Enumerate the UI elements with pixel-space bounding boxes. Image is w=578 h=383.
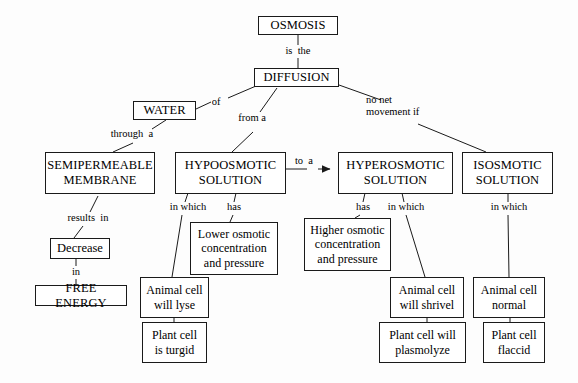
link-label-in-which-hyper: in which (381, 201, 431, 213)
node-water[interactable]: WATER (133, 101, 196, 120)
node-higher-osmotic[interactable]: Higher osmotic concentration and pressur… (304, 218, 391, 271)
edge-througha-semiperm (113, 143, 133, 152)
node-hyperosmotic-solution[interactable]: HYPEROSMOTIC SOLUTION (338, 152, 453, 194)
node-lower-osmotic[interactable]: Lower osmotic concentration and pressure (190, 222, 278, 275)
edge-inwhichr-animalshrivel (406, 215, 425, 277)
node-plant-cell-plasmolyze[interactable]: Plant cell will plasmolyze (379, 322, 466, 363)
edge-diffusion-froma (260, 88, 277, 112)
link-label-in-which-hypo: in which (163, 201, 213, 213)
edge-nonet-isosmotic (418, 124, 486, 152)
node-free-energy[interactable]: FREE ENERGY (35, 285, 127, 306)
node-osmosis[interactable]: OSMOSIS (258, 16, 338, 35)
node-diffusion[interactable]: DIFFUSION (254, 68, 339, 87)
link-label-through-a: through a (96, 128, 168, 140)
edge-inwhich-animalnormal (508, 215, 509, 277)
edge-semiperm-resultsin (90, 196, 98, 212)
node-plant-cell-flaccid[interactable]: Plant cell flaccid (483, 322, 545, 363)
link-label-from-a: from a (226, 112, 278, 124)
link-label-has-hyper: has (350, 201, 376, 213)
link-label-has-hypo: has (221, 201, 247, 213)
edge-inwhich-animallyse (172, 215, 182, 277)
node-plant-cell-turgid[interactable]: Plant cell is turgid (142, 322, 207, 363)
link-label-to-a: to a (290, 155, 318, 167)
link-label-is-the: is the (274, 45, 322, 57)
node-animal-cell-shrivel[interactable]: Animal cell will shrivel (390, 277, 464, 318)
link-label-in-which-iso: in which (484, 201, 534, 213)
edge-diffusion-of (228, 86, 256, 98)
node-animal-cell-normal[interactable]: Animal cell normal (473, 277, 545, 318)
link-label-of: of (207, 96, 225, 108)
link-label-results-in: results in (55, 212, 121, 224)
node-isosmotic-solution[interactable]: ISOSMOTIC SOLUTION (462, 152, 553, 194)
node-decrease[interactable]: Decrease (50, 238, 110, 259)
node-hypoosmotic-solution[interactable]: HYPOOSMOTIC SOLUTION (175, 152, 286, 194)
edge-has-lower (230, 215, 233, 222)
link-label-no-net-movement-if: no net movement if (366, 94, 438, 118)
edge-resultsin-decrease (74, 226, 83, 238)
concept-map-canvas: OSMOSIS DIFFUSION WATER SEMIPERMEABLE ME… (0, 0, 578, 383)
edge-froma-hypoosmotic (232, 132, 253, 152)
node-animal-cell-lyse[interactable]: Animal cell will lyse (140, 277, 209, 318)
link-label-in: in (66, 266, 86, 278)
node-semipermeable-membrane[interactable]: SEMIPERMEABLE MEMBRANE (45, 152, 155, 194)
